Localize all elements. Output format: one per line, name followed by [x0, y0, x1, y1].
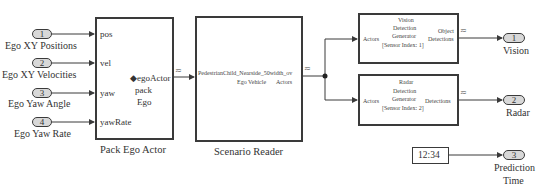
vision-name-3: Generator	[392, 33, 416, 39]
radar-detection-generator-block[interactable]: Actors Radar Detection Generator [Sensor…	[358, 74, 459, 126]
vision-detection-generator-block[interactable]: Actors Vision Detection Generator [Senso…	[358, 13, 459, 64]
radar-sensor-index: [Sensor Index: 2]	[382, 105, 424, 111]
inport-4[interactable]: 4	[32, 117, 52, 127]
constant-block[interactable]: 12:34	[412, 147, 449, 164]
vision-sensor-index: [Sensor Index: 1]	[382, 42, 424, 48]
constant-value: 12:34	[418, 150, 440, 160]
matlab-function-icon: ◆	[130, 73, 137, 83]
vision-port-detections: Detections	[428, 36, 454, 42]
outport-1-label: Vision	[503, 45, 529, 56]
port-pos: pos	[100, 29, 113, 39]
pack-ego-actor-block[interactable]: pos vel yaw yawRate ◆egoActor pack Ego	[95, 17, 174, 140]
bus-icon: ≂	[175, 66, 182, 75]
inport-1[interactable]: 1	[32, 29, 52, 39]
radar-name-2: Detection	[393, 88, 416, 94]
scenario-reader-block[interactable]: PedestrianChild_Nearside_50width_ov Ego …	[195, 16, 303, 142]
junction-dot	[323, 74, 328, 79]
vision-port-object: Object	[438, 28, 454, 34]
outport-3[interactable]: 3	[503, 150, 525, 160]
outport-2[interactable]: 2	[503, 95, 525, 105]
radar-port-actors: Actors	[363, 98, 379, 104]
pack-label-2: Ego	[137, 97, 152, 107]
outport-1[interactable]: 1	[503, 33, 525, 43]
inport-2[interactable]: 2	[32, 58, 52, 68]
port-egoactor: ◆egoActor	[130, 73, 170, 83]
inport-3-label: Ego Yaw Angle	[8, 98, 71, 109]
port-actors: Actors	[276, 79, 292, 85]
scenario-name: PedestrianChild_Nearside_50width_ov	[198, 70, 292, 76]
radar-name-1: Radar	[399, 79, 413, 85]
outport-3-label-2: Time	[503, 175, 524, 186]
inport-2-label: Ego XY Velocities	[2, 69, 76, 80]
pack-ego-actor-title: Pack Ego Actor	[100, 144, 166, 155]
bus-icon: ≂	[304, 64, 311, 73]
radar-name-3: Generator	[392, 96, 416, 102]
bus-icon: ≂	[460, 26, 467, 35]
outport-2-label: Radar	[506, 107, 530, 118]
port-vel: vel	[100, 58, 111, 68]
vision-name-2: Detection	[393, 25, 416, 31]
scenario-reader-title: Scenario Reader	[214, 146, 283, 157]
pack-label-1: pack	[135, 85, 152, 95]
radar-port-detections: Detections	[425, 98, 451, 104]
vision-name-1: Vision	[398, 17, 414, 23]
vision-port-actors: Actors	[363, 36, 379, 42]
port-yaw: yaw	[100, 88, 115, 98]
inport-1-label: Ego XY Positions	[5, 40, 77, 51]
bus-icon: ≂	[460, 88, 467, 97]
outport-3-label-1: Prediction	[494, 162, 535, 173]
inport-3[interactable]: 3	[32, 88, 52, 98]
port-yawrate: yawRate	[100, 117, 132, 127]
port-ego-vehicle: Ego Vehicle	[237, 79, 266, 85]
inport-4-label: Ego Yaw Rate	[14, 128, 71, 139]
